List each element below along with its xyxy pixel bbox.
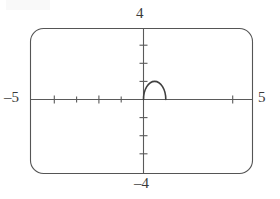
plot-frame xyxy=(31,29,253,174)
coordinate-plane-svg xyxy=(0,0,280,199)
axis-label-left: –5 xyxy=(4,90,19,105)
graph-figure: 4 –4 –5 5 xyxy=(0,0,280,199)
axis-label-bottom: –4 xyxy=(134,176,149,191)
axis-label-top: 4 xyxy=(136,6,144,21)
axis-label-right: 5 xyxy=(258,90,266,105)
